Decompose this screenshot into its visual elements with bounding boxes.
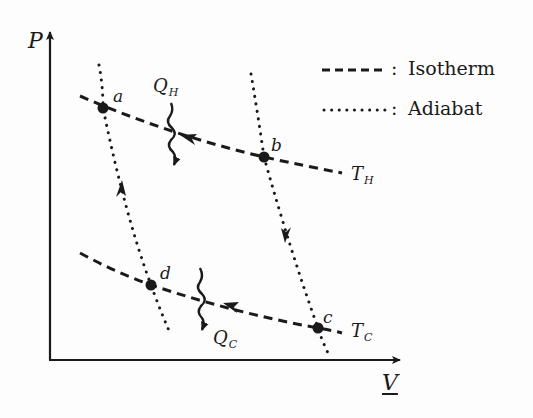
legend-isotherm-separator: : [391,59,397,78]
point-d [146,280,157,291]
hot-temp-subscript: H [364,174,374,187]
adiabat-right [251,74,329,355]
heat-in-wavy-arrow [168,103,175,165]
p-axis-label: P [28,30,43,52]
legend-samples [322,70,385,110]
point-c [313,323,324,334]
hot-isotherm-label: TH [351,165,374,186]
heat-out-symbol: Q [213,327,228,348]
heat-in-label: QH [153,77,178,98]
point-a [98,103,109,114]
v-axis-label: V [382,372,398,394]
arrow-d-to-a [116,180,126,197]
heat-in-subscript: H [169,86,179,99]
adiabat-left [99,65,170,333]
legend-isotherm-text: Isotherm [408,59,495,78]
heat-out-subscript: C [229,338,237,351]
point-c-label: c [323,309,333,326]
cold-temp-subscript: C [364,331,372,344]
point-b-label: b [271,137,282,154]
legend-adiabat-separator: : [391,99,397,118]
point-d-label: d [160,265,171,282]
adiabats [99,65,329,355]
state-points [98,103,324,334]
isotherm-cold [80,253,342,333]
point-a-label: a [113,88,123,105]
heat-out-label: QC [213,329,237,350]
heat-in-symbol: Q [153,75,168,96]
isotherm-hot [80,96,342,173]
point-b [259,152,270,163]
isotherms [80,96,342,333]
carnot-cycle-diagram: P V a b c d TH TC QH QC : Isotherm : Adi… [0,0,533,418]
hot-temp-symbol: T [351,163,363,184]
cold-isotherm-label: TC [351,322,372,343]
cold-temp-symbol: T [351,320,363,341]
legend-adiabat-text: Adiabat [408,99,482,118]
